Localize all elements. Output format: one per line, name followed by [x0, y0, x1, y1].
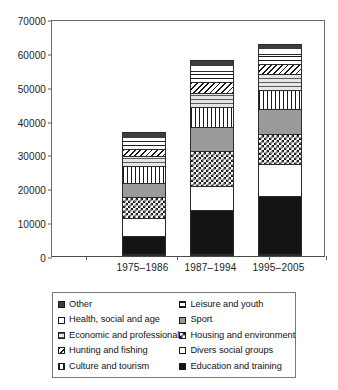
legend-label: Leisure and youth	[190, 300, 263, 309]
bar-segment	[122, 138, 166, 142]
legend-label: Hunting and fishing	[69, 346, 148, 355]
legend-label: Sport	[190, 315, 212, 324]
y-tick-label: 0	[40, 253, 52, 264]
bar-segment	[258, 44, 302, 49]
x-tick-mark	[177, 256, 178, 260]
bar-3	[258, 44, 302, 256]
bar-segment	[122, 150, 166, 157]
y-tick-label: 60000	[18, 49, 52, 60]
legend-label: Economic and professional	[69, 331, 179, 340]
bar-segment	[122, 237, 166, 256]
legend-item[interactable]: Health, social and age	[58, 312, 179, 327]
legend-item[interactable]: Housing and environment	[179, 328, 295, 343]
x-tick-mark	[269, 256, 270, 260]
bar-segment	[122, 184, 166, 198]
bar-segment	[122, 157, 166, 166]
plot-area: 010000200003000040000500006000070000	[51, 20, 325, 257]
legend-item[interactable]: Leisure and youth	[179, 297, 295, 312]
bar-segment	[190, 60, 234, 66]
y-tick-label: 10000	[18, 219, 52, 230]
bar-segment	[258, 49, 302, 55]
legend-item[interactable]: Education and training	[179, 359, 295, 374]
bar-segment	[122, 167, 166, 185]
legend-swatch-icon	[58, 363, 65, 370]
bar-segment	[190, 128, 234, 153]
legend-swatch-icon	[58, 347, 65, 354]
legend-swatch-icon	[58, 332, 65, 339]
y-tick-label: 70000	[18, 16, 52, 27]
legend-label: Health, social and age	[69, 315, 160, 324]
y-tick-label: 20000	[18, 185, 52, 196]
bar-segment	[258, 165, 302, 197]
legend-swatch-icon	[179, 363, 186, 370]
bar-segment	[122, 132, 166, 137]
x-tick-mark	[86, 256, 87, 260]
y-tick-label: 30000	[18, 151, 52, 162]
x-axis-label-2: 1987–1994	[185, 262, 237, 273]
y-tick-label: 40000	[18, 117, 52, 128]
bar-segment	[190, 152, 234, 187]
x-axis-label-3: 1995–2005	[253, 262, 305, 273]
bar-2	[190, 60, 234, 256]
bar-segment	[258, 197, 302, 256]
stacked-bar-chart: 010000200003000040000500006000070000 197…	[0, 0, 338, 390]
legend-swatch-icon	[58, 317, 65, 324]
legend-item[interactable]: Culture and tourism	[58, 359, 179, 374]
bar-segment	[190, 108, 234, 128]
legend-label: Other	[69, 300, 92, 309]
bar-segment	[190, 94, 234, 109]
bar-segment	[258, 65, 302, 75]
legend-label: Culture and tourism	[69, 362, 149, 371]
bar-segment	[122, 219, 166, 237]
bar-segment	[258, 55, 302, 65]
chart-legend: OtherLeisure and youthHealth, social and…	[52, 292, 296, 378]
legend-item[interactable]: Other	[58, 297, 179, 312]
legend-swatch-icon	[179, 301, 186, 308]
legend-item[interactable]: Divers social groups	[179, 343, 295, 358]
bar-segment	[190, 187, 234, 211]
bar-segment	[190, 83, 234, 94]
y-tick-label: 50000	[18, 83, 52, 94]
bar-segment	[258, 91, 302, 111]
legend-label: Divers social groups	[190, 346, 273, 355]
legend-swatch-icon	[179, 317, 186, 324]
legend-swatch-icon	[58, 301, 65, 308]
bar-segment	[190, 66, 234, 71]
bar-segment	[190, 211, 234, 256]
legend-label: Education and training	[190, 362, 281, 371]
x-axis-label-1: 1975–1986	[117, 262, 169, 273]
legend-swatch-icon	[179, 347, 186, 354]
x-tick-mark	[326, 256, 327, 260]
bar-1	[122, 132, 166, 256]
bar-segment	[258, 110, 302, 135]
legend-item[interactable]: Sport	[179, 312, 295, 327]
legend-item[interactable]: Economic and professional	[58, 328, 179, 343]
legend-swatch-icon	[179, 332, 186, 339]
legend-item[interactable]: Hunting and fishing	[58, 343, 179, 358]
bar-segment	[190, 72, 234, 83]
legend-label: Housing and environment	[190, 331, 295, 340]
bar-segment	[258, 135, 302, 164]
bar-segment	[258, 75, 302, 91]
bar-segment	[122, 142, 166, 151]
bar-segment	[122, 198, 166, 219]
